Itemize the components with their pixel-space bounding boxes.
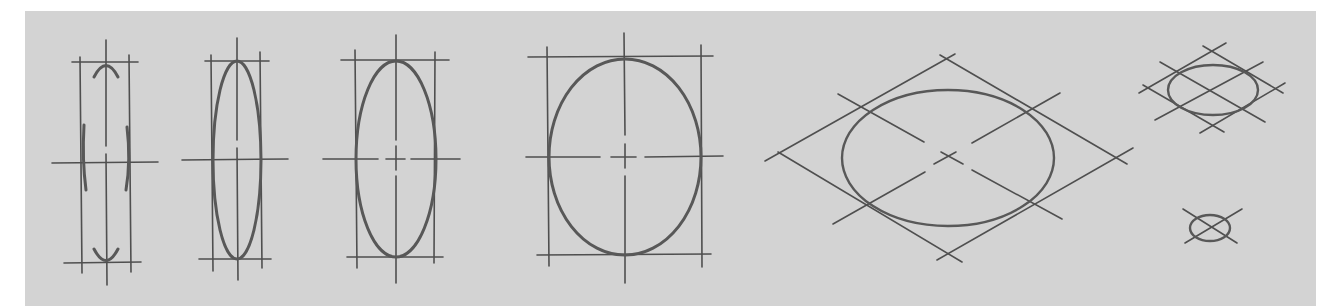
sketch-ellipse-in-rhombus-small [1139, 43, 1285, 133]
sketch-ellipse-in-rhombus-large [765, 54, 1133, 262]
sketch-construction-marks [52, 40, 158, 285]
sketch-ellipse-in-cross-tiny [1183, 209, 1242, 243]
ellipse-sketches [0, 0, 1340, 306]
sketch-wide-ellipse [526, 33, 723, 283]
sketch-narrow-ellipse [182, 38, 288, 280]
sketch-medium-ellipse [323, 35, 460, 283]
